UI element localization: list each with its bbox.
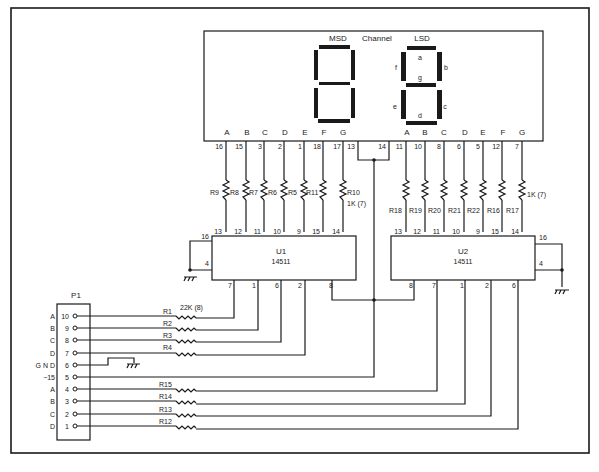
channel-label: Channel — [362, 34, 392, 43]
lsd-resistor-bank: R18 R19 R20 R21 R22 R16 R17 1K (7) — [389, 141, 546, 232]
resistor-label: R13 — [159, 406, 172, 413]
pin: 8 — [437, 143, 441, 150]
seg-letter-f: f — [395, 64, 397, 71]
p1-row-label: B — [50, 398, 55, 405]
lsd-seg-B: B — [422, 128, 427, 137]
pin: 12 — [234, 228, 242, 235]
p1-pin: 9 — [65, 325, 69, 332]
pin: 9 — [297, 228, 301, 235]
pin: 10 — [414, 143, 422, 150]
lsd-seg-F: F — [501, 128, 506, 137]
pin: 2 — [485, 282, 489, 289]
ic-u1: U1 14511 13 12 11 10 9 15 14 16 4 7 1 6 … — [184, 228, 356, 289]
resistor-label: R7 — [249, 189, 258, 196]
p1-pin: 7 — [65, 350, 69, 357]
u2-part: 14511 — [454, 258, 473, 265]
lsd-seg-A: A — [404, 128, 410, 137]
pin: 17 — [333, 143, 341, 150]
msd-seg-g — [319, 82, 350, 85]
resistor-label: R2 — [163, 320, 172, 327]
p1-pin: 4 — [65, 386, 69, 393]
msd-seg-e — [314, 88, 318, 118]
resistor-label: R12 — [159, 418, 172, 425]
lsd-seg-G: G — [519, 128, 525, 137]
msd-seg-B: B — [244, 128, 249, 137]
schematic-diagram: MSD Channel LSD a b c d e f — [0, 0, 599, 472]
p1-row-label: A — [50, 386, 55, 393]
pin: 18 — [313, 143, 321, 150]
pin: 5 — [476, 143, 480, 150]
seg-letter-d: d — [418, 112, 422, 119]
resistor-value: 22K (8) — [180, 304, 203, 312]
p1-pin: 1 — [65, 423, 69, 430]
resistor-label: R15 — [159, 381, 172, 388]
msd-seg-a — [319, 45, 350, 49]
msd-seg-E: E — [302, 128, 307, 137]
resistor-label: R5 — [288, 189, 297, 196]
resistor-label: R18 — [389, 207, 402, 214]
pin: 8 — [409, 282, 413, 289]
common-anode-wire — [358, 141, 389, 300]
lsd-seg-g — [406, 83, 436, 87]
p1-row-label: A — [50, 313, 55, 320]
resistor-label: R17 — [506, 207, 519, 214]
ground-icon — [127, 364, 140, 368]
resistor-label: R16 — [487, 207, 500, 214]
pin: 6 — [275, 282, 279, 289]
p1-pin: 10 — [61, 313, 69, 320]
p1-row-label: G N D — [36, 362, 55, 369]
u1-name: U1 — [276, 247, 287, 256]
seg-letter-c: c — [443, 103, 447, 110]
seg-letter-a: a — [418, 54, 422, 61]
msd-seg-A: A — [224, 128, 230, 137]
lsd-seg-C: C — [441, 128, 447, 137]
pin: 4 — [539, 260, 543, 267]
msd-seg-D: D — [282, 128, 288, 137]
pin: 13 — [214, 228, 222, 235]
p1-row-label: D — [50, 423, 55, 430]
msd-seg-f — [314, 50, 318, 80]
p1-row-label: C — [50, 411, 55, 418]
pin: 14 — [378, 143, 386, 150]
msd-seg-C: C — [262, 128, 268, 137]
p1-pin: 6 — [65, 362, 69, 369]
lsd-seg-d — [406, 121, 437, 125]
pin: 11 — [396, 143, 403, 150]
pin: 3 — [258, 143, 262, 150]
lsd-seg-b — [437, 52, 442, 81]
lsd-seg-f — [401, 52, 406, 81]
resistor-label: R3 — [163, 332, 172, 339]
resistor-label: R6 — [268, 189, 277, 196]
msd-seg-c — [351, 88, 355, 118]
p1-pin: 2 — [65, 411, 69, 418]
blanking-link-wire — [332, 280, 414, 300]
u2-name: U2 — [458, 247, 469, 256]
msd-seg-d — [318, 119, 350, 123]
resistor-label: R1 — [163, 308, 172, 315]
pin: 7 — [228, 282, 232, 289]
pin: 16 — [539, 234, 547, 241]
ground-icon — [555, 290, 569, 294]
p1-row-label: D — [50, 350, 55, 357]
pin: 1 — [252, 282, 256, 289]
lsd-seg-c — [437, 90, 442, 119]
resistor-label: R20 — [428, 207, 441, 214]
msd-seg-F: F — [322, 128, 327, 137]
resistor-label: R10 — [347, 189, 360, 196]
lsd-seg-e — [401, 90, 406, 119]
pin: 6 — [512, 282, 516, 289]
pin: 13 — [347, 143, 355, 150]
ground-icon — [184, 277, 197, 281]
pin: 15 — [235, 143, 243, 150]
p1-name: P1 — [71, 291, 81, 300]
resistor-label: R22 — [467, 207, 480, 214]
input-wires: R1 22K (8) R2 R3 R4 R15 R14 R13 R12 — [77, 280, 518, 429]
pin: 12 — [413, 228, 421, 235]
p1-row-label: C — [50, 337, 55, 344]
resistor-label: R9 — [210, 189, 219, 196]
pin: 7 — [432, 282, 436, 289]
pin: 14 — [511, 228, 519, 235]
seg-letter-b: b — [444, 64, 448, 71]
pin: 9 — [476, 228, 480, 235]
resistor-label: R4 — [163, 344, 172, 351]
